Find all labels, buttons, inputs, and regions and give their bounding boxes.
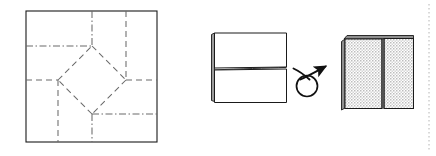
back-panel-left-shaded <box>345 39 382 109</box>
folded-front-panel <box>212 33 287 103</box>
back-left-edge-strip <box>342 39 346 110</box>
folded-upper-half <box>215 33 287 68</box>
origami-diagram-svg <box>0 0 436 156</box>
folded-back-panel <box>342 36 414 111</box>
back-panel-right-shaded <box>384 39 414 109</box>
folded-lower-half <box>215 69 287 103</box>
origami-figure-root <box>0 0 436 156</box>
crease-pattern-panel <box>26 11 157 142</box>
